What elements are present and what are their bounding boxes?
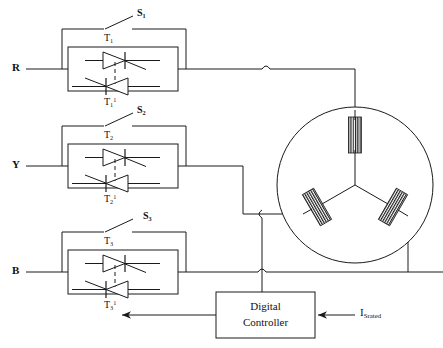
thyristor-label-t2: T2 (104, 130, 113, 141)
circuit-diagram (0, 0, 443, 348)
controller-label-line2: Controller (216, 316, 315, 330)
switch-blade-s2 (105, 113, 133, 126)
thyristor-label-t1: T1 (104, 33, 113, 44)
current-signal-label: ISrated (360, 307, 381, 320)
digital-controller-box[interactable] (216, 292, 315, 338)
phase-r-branch (26, 16, 262, 95)
thyristor-label-t3-prime: T31 (104, 300, 116, 311)
phase-label-r: R (12, 62, 20, 73)
thyristor-label-t2-prime: T21 (104, 194, 116, 205)
switch-blade-s1 (105, 16, 133, 29)
phase-label-y: Y (12, 159, 20, 170)
thyristor-label-t1-prime: T11 (104, 97, 116, 108)
switch-blade-s3 (105, 219, 133, 232)
phase-y-branch (26, 113, 243, 192)
phase-label-b: B (12, 265, 19, 276)
switch-label-s3: S3 (143, 211, 152, 222)
controller-label-line1: Digital (216, 300, 315, 314)
switch-label-s1: S1 (137, 8, 146, 19)
switch-label-s2: S2 (137, 105, 146, 116)
thyristor-label-t3: T3 (104, 236, 113, 247)
